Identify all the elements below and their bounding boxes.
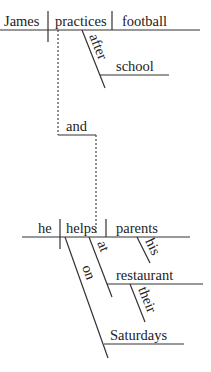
clause-1: James practices football after school (0, 11, 200, 88)
prep1-object-word: restaurant (116, 267, 173, 283)
conjunction-connector: and (58, 30, 96, 233)
subject-word-2: he (38, 220, 52, 236)
preposition1-word: at (94, 238, 113, 254)
clause-2: he helps parents his at restaurant their… (22, 219, 203, 358)
preposition2-diagonal (65, 237, 108, 358)
verb-word-2: helps (66, 220, 97, 236)
conjunction-word: and (66, 118, 88, 134)
sentence-diagram: James practices football after school an… (0, 0, 211, 372)
subject-word: James (4, 13, 40, 29)
preposition-word: after (86, 31, 111, 62)
preposition2-word: on (79, 263, 99, 283)
prep-object-word: school (116, 58, 154, 74)
prep2-object-word: Saturdays (110, 327, 168, 343)
verb-word: practices (55, 13, 107, 29)
object-word-2: parents (116, 220, 158, 236)
object-word: football (122, 13, 167, 29)
prep1-object-modifier-word: their (135, 284, 160, 315)
